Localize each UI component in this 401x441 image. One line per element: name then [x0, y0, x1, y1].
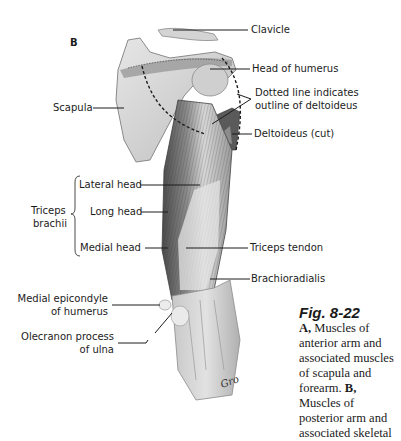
panel-label: B: [70, 37, 78, 48]
caption-b-label: B,: [345, 381, 356, 395]
label-olecranon-2: of ulna: [80, 344, 114, 356]
medial-epicondyle-shape: [159, 300, 171, 310]
label-brachioradialis: Brachioradialis: [251, 273, 325, 285]
caption-b-text: Muscles of posterior arm and associated …: [299, 396, 392, 440]
label-lateral-head: Lateral head: [79, 179, 142, 191]
label-scapula: Scapula: [53, 102, 93, 114]
label-triceps-brachii-2: brachii: [33, 218, 67, 230]
label-medial-epicondyle-2: of humerus: [51, 306, 108, 318]
label-medial-epicondyle-1: Medial epicondyle: [18, 293, 108, 305]
label-medial-head: Medial head: [80, 242, 141, 254]
figure-caption: Fig. 8-22 A, Muscles of anterior arm and…: [299, 305, 401, 441]
olecranon-shape: [171, 306, 189, 326]
label-clavicle: Clavicle: [251, 24, 290, 36]
caption-a-label: A,: [299, 321, 311, 335]
label-dotted-line-note-1: Dotted line indicates: [255, 87, 359, 99]
label-head-of-humerus: Head of humerus: [252, 63, 338, 75]
label-olecranon-1: Olecranon process: [21, 331, 114, 343]
label-long-head: Long head: [90, 206, 142, 218]
figure-number: Fig. 8-22: [299, 305, 401, 320]
label-triceps-brachii-1: Triceps: [31, 205, 66, 217]
label-dotted-line-note-2: outline of deltoideus: [255, 100, 358, 112]
label-deltoideus-cut: Deltoideus (cut): [254, 128, 334, 140]
label-triceps-tendon: Triceps tendon: [250, 242, 323, 254]
